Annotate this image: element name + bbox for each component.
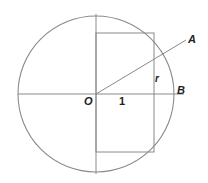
label-radius-r: r [155, 74, 159, 84]
label-unit-length: 1 [119, 96, 125, 107]
label-point-a: A [188, 34, 196, 45]
inscribed-rectangle [96, 33, 154, 152]
label-point-b: B [177, 85, 185, 96]
radius-line-to-point-a [96, 40, 186, 94]
geometry-figure: O 1 r B A [0, 0, 208, 183]
label-center-o: O [84, 96, 93, 107]
